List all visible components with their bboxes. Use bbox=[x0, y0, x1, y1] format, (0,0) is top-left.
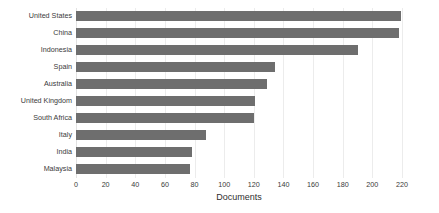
bar-row bbox=[76, 144, 402, 161]
category-label: United Kingdom bbox=[0, 97, 72, 105]
bar-row bbox=[76, 8, 402, 25]
x-axis-tick-labels: 020406080100120140160180200220 bbox=[76, 178, 402, 192]
bar-chart: United StatesChinaIndonesiaSpainAustrali… bbox=[0, 0, 439, 213]
category-label: Australia bbox=[0, 80, 72, 88]
category-axis-labels: United StatesChinaIndonesiaSpainAustrali… bbox=[0, 8, 72, 178]
category-label: Indonesia bbox=[0, 46, 72, 54]
bar-row bbox=[76, 25, 402, 42]
bar bbox=[76, 28, 399, 38]
category-label: South Africa bbox=[0, 114, 72, 122]
x-tick-label: 220 bbox=[396, 180, 408, 189]
bar-row bbox=[76, 59, 402, 76]
bar bbox=[76, 130, 206, 140]
category-label: China bbox=[0, 29, 72, 37]
bar-row bbox=[76, 42, 402, 59]
x-tick-label: 160 bbox=[307, 180, 319, 189]
x-tick-label: 140 bbox=[277, 180, 289, 189]
plot-area bbox=[76, 8, 402, 178]
bar bbox=[76, 96, 255, 106]
gridline-220 bbox=[402, 8, 403, 178]
bar bbox=[76, 79, 267, 89]
category-label: United States bbox=[0, 12, 72, 20]
x-tick-label: 40 bbox=[131, 180, 139, 189]
bar bbox=[76, 113, 254, 123]
x-tick-label: 60 bbox=[161, 180, 169, 189]
x-tick-label: 80 bbox=[191, 180, 199, 189]
bar bbox=[76, 164, 190, 174]
category-label: India bbox=[0, 148, 72, 156]
bar-row bbox=[76, 110, 402, 127]
bar bbox=[76, 45, 358, 55]
bar-row bbox=[76, 76, 402, 93]
bar bbox=[76, 11, 401, 21]
x-tick-label: 100 bbox=[218, 180, 230, 189]
x-axis-title: Documents bbox=[76, 192, 402, 203]
bar-series bbox=[76, 8, 402, 178]
category-label: Spain bbox=[0, 63, 72, 71]
x-tick-label: 180 bbox=[337, 180, 349, 189]
category-label: Malaysia bbox=[0, 165, 72, 173]
x-tick-label: 20 bbox=[102, 180, 110, 189]
x-tick-label: 200 bbox=[366, 180, 378, 189]
bar bbox=[76, 62, 275, 72]
bar-row bbox=[76, 161, 402, 178]
x-tick-label: 0 bbox=[74, 180, 78, 189]
bar-row bbox=[76, 93, 402, 110]
bar bbox=[76, 147, 192, 157]
x-tick-label: 120 bbox=[248, 180, 260, 189]
category-label: Italy bbox=[0, 131, 72, 139]
bar-row bbox=[76, 127, 402, 144]
